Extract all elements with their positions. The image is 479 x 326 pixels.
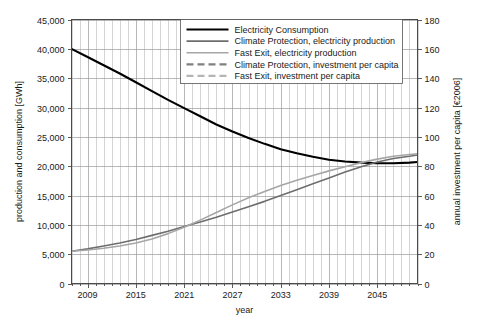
legend-label-2: Fast Exit, electricity production (235, 48, 357, 58)
y-tick-label-left: 35,000 (37, 74, 65, 84)
y-tick-label-right: 80 (425, 162, 435, 172)
y-tick-label-left: 5,000 (42, 250, 65, 260)
y-axis-title-left: production and consumption [GWh] (14, 81, 24, 222)
x-tick-label: 2021 (174, 290, 194, 300)
y-tick-label-right: 40 (425, 221, 435, 231)
y-tick-label-right: 100 (425, 133, 440, 143)
y-tick-label-left: 25,000 (37, 133, 65, 143)
x-tick-label: 2009 (78, 290, 98, 300)
y-axis-left: 05,00010,00015,00020,00025,00030,00035,0… (37, 16, 72, 290)
y-tick-label-left: 30,000 (37, 104, 65, 114)
chart-figure: 05,00010,00015,00020,00025,00030,00035,0… (0, 0, 479, 326)
x-tick-label: 2015 (126, 290, 146, 300)
legend-label-3: Climate Protection, investment per capit… (235, 60, 399, 70)
y-tick-label-left: 45,000 (37, 16, 65, 26)
y-tick-label-right: 60 (425, 192, 435, 202)
y-axis-right: 020406080100120140160180 (418, 16, 440, 290)
x-axis: 2009201520212027203320392045 (73, 284, 419, 300)
y-tick-label-right: 120 (425, 104, 440, 114)
x-tick-label: 2027 (222, 290, 242, 300)
x-tick-label: 2045 (367, 290, 387, 300)
y-tick-label-right: 140 (425, 74, 440, 84)
y-tick-label-left: 15,000 (37, 192, 65, 202)
y-tick-label-left: 20,000 (37, 162, 65, 172)
y-tick-label-left: 10,000 (37, 221, 65, 231)
y-tick-label-right: 160 (425, 45, 440, 55)
legend-label-1: Climate Protection, electricity producti… (235, 36, 396, 46)
y-tick-label-right: 20 (425, 250, 435, 260)
x-tick-label: 2033 (271, 290, 291, 300)
legend-label-0: Electricity Consumption (235, 25, 329, 35)
y-axis-title-right: annual investment per capita [€2006] (452, 78, 462, 226)
y-tick-label-right: 0 (425, 280, 430, 290)
x-tick-label: 2039 (319, 290, 339, 300)
y-tick-label-left: 40,000 (37, 45, 65, 55)
line-chart: 05,00010,00015,00020,00025,00030,00035,0… (0, 0, 479, 326)
y-tick-label-left: 0 (59, 280, 64, 290)
legend: Electricity ConsumptionClimate Protectio… (181, 20, 403, 84)
legend-label-4: Fast Exit, investment per capita (235, 71, 361, 81)
x-axis-title: year (236, 305, 254, 315)
y-tick-label-right: 180 (425, 16, 440, 26)
